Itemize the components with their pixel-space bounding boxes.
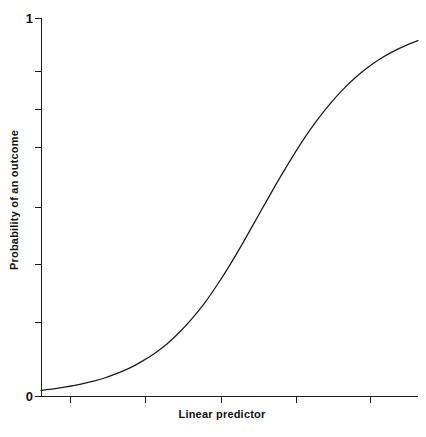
y-axis-min-tick-label: 0: [26, 389, 33, 404]
figure-background: [0, 0, 426, 437]
logistic-curve-figure: 1 0 Probability of an outcome Linear pre…: [0, 0, 426, 437]
x-axis-title: Linear predictor: [179, 408, 266, 420]
y-axis-title: Probability of an outcome: [8, 130, 20, 270]
y-axis-max-tick-label: 1: [26, 11, 33, 26]
